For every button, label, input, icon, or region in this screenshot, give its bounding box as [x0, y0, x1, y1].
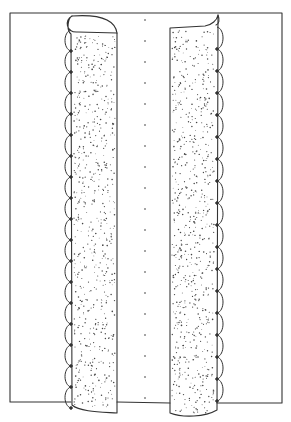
frame-rectangle	[10, 13, 282, 403]
dotted-center-line	[144, 19, 146, 399]
scalloped-edges	[65, 27, 223, 409]
left-column	[67, 16, 117, 413]
illustration-svg	[0, 0, 291, 422]
stipple-texture	[73, 30, 214, 414]
left-column-top-curl	[72, 16, 117, 33]
line-drawing	[0, 0, 291, 422]
